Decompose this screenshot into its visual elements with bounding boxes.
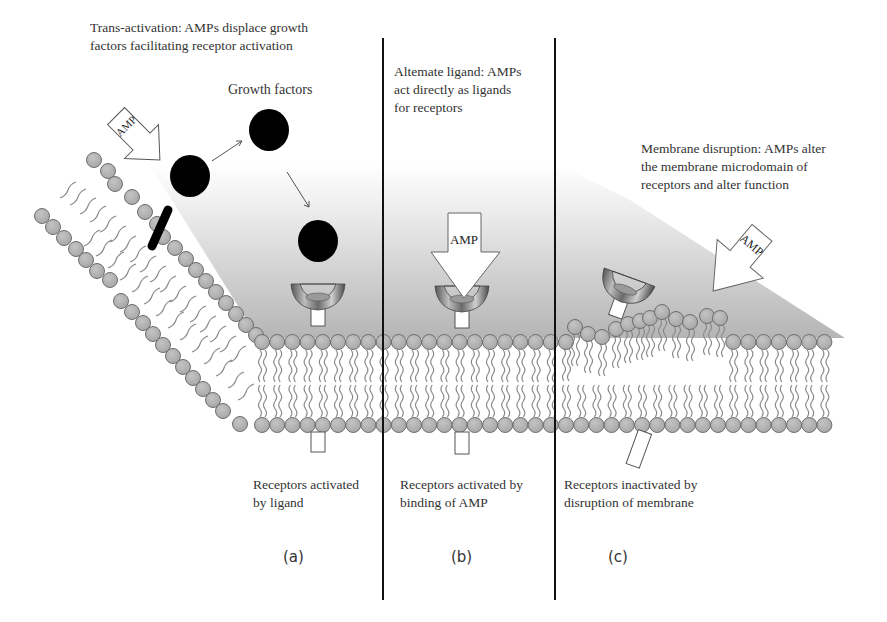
growth-factor-binding [298, 220, 338, 262]
panel-a-title: Trans-activation: AMPs displace growth f… [90, 19, 308, 55]
panel-c-label: (c) [608, 548, 628, 566]
receptor-c-intracellular-tilted [626, 430, 651, 469]
lipid-bilayer [255, 335, 832, 433]
panel-a-label: (a) [283, 548, 304, 566]
panel-c-title: Membrane disruption: AMPs alter the memb… [641, 140, 826, 194]
receptor-b-intracellular [455, 432, 469, 454]
panel-b-caption: Receptors activated by binding of AMP [400, 476, 523, 512]
growth-factors-label: Growth factors [228, 82, 312, 98]
panel-b-label: (b) [451, 548, 472, 566]
panel-b-title: Altemate ligand: AMPs act directly as li… [394, 63, 522, 117]
panel-a-caption: Receptors activated by ligand [253, 476, 359, 512]
receptor-a-intracellular [311, 432, 325, 452]
svg-text:AMP: AMP [450, 232, 478, 247]
panel-c-caption: Receptors inactivated by disruption of m… [564, 476, 697, 512]
growth-factor-released [249, 109, 289, 151]
